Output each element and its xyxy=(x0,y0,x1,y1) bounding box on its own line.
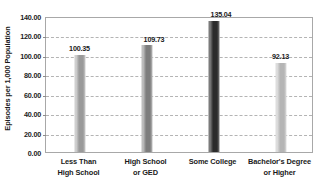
bar-group: 100.35 xyxy=(46,18,113,152)
y-axis-tick-label: 80.00 xyxy=(24,71,41,80)
x-axis-category-label-line: Some College xyxy=(179,157,246,168)
bar[interactable] xyxy=(275,63,286,152)
x-axis-category-label-line: or GED xyxy=(112,168,179,179)
x-axis-category-label: Some College xyxy=(179,157,246,168)
x-axis-category-label-line: High School xyxy=(45,168,112,179)
bar-value-label: 92.13 xyxy=(272,52,289,61)
plot-area: 100.35109.73135.0492.13 xyxy=(45,17,313,153)
bar-group: 92.13 xyxy=(247,18,314,152)
x-axis-category-label-line: Less Than xyxy=(45,157,112,168)
x-axis-category-label: High Schoolor GED xyxy=(112,157,179,178)
y-axis-tick-label: 120.00 xyxy=(20,32,41,41)
y-axis-title: Episodes per 1,000 Population xyxy=(0,0,14,156)
bar[interactable] xyxy=(141,45,152,152)
bar[interactable] xyxy=(74,55,85,152)
bar-value-label: 100.35 xyxy=(69,44,90,53)
bar-group: 135.04 xyxy=(180,18,247,152)
y-axis-tick-label: 140.00 xyxy=(20,13,41,22)
y-axis-tick-labels: 0.0020.0040.0060.0080.00100.00120.00140.… xyxy=(13,17,43,153)
bar-chart: Episodes per 1,000 Population 0.0020.004… xyxy=(0,0,326,189)
x-axis-category-label-line: Bachelor's Degree xyxy=(246,157,313,168)
y-axis-title-text: Episodes per 1,000 Population xyxy=(3,26,12,130)
y-axis-tick-label: 0.00 xyxy=(28,149,41,158)
x-axis-category-labels: Less ThanHigh SchoolHigh Schoolor GEDSom… xyxy=(45,157,313,187)
x-axis-category-label: Bachelor's Degreeor Higher xyxy=(246,157,313,178)
bar[interactable] xyxy=(208,21,219,152)
x-axis-category-label-line: High School xyxy=(112,157,179,168)
y-axis-tick-label: 20.00 xyxy=(24,129,41,138)
x-axis-category-label-line: or Higher xyxy=(246,168,313,179)
y-axis-tick-label: 40.00 xyxy=(24,110,41,119)
bar-value-label: 109.73 xyxy=(144,35,165,44)
y-axis-tick-label: 60.00 xyxy=(24,90,41,99)
bar-value-label: 135.04 xyxy=(211,10,232,19)
y-axis-tick-label: 100.00 xyxy=(20,51,41,60)
bar-group: 109.73 xyxy=(113,18,180,152)
x-axis-category-label: Less ThanHigh School xyxy=(45,157,112,178)
